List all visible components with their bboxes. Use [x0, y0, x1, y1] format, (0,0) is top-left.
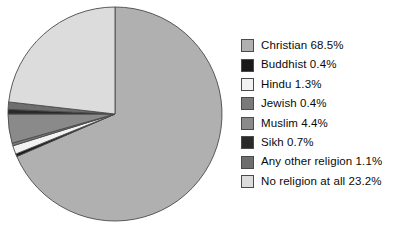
legend-swatch-jewish [241, 97, 254, 110]
legend-swatch-no-religion-at-all [241, 175, 254, 188]
chart-legend: Christian 68.5% Buddhist 0.4% Hindu 1.3%… [241, 36, 399, 191]
legend-item-jewish[interactable]: Jewish 0.4% [241, 94, 399, 113]
legend-swatch-christian [241, 39, 254, 52]
legend-label-muslim: Muslim 4.4% [261, 118, 328, 130]
pie-slice-no-religion-at-all[interactable] [9, 7, 115, 114]
legend-swatch-hindu [241, 78, 254, 91]
pie-chart-area [0, 0, 235, 229]
legend-item-muslim[interactable]: Muslim 4.4% [241, 114, 399, 133]
legend-label-buddhist: Buddhist 0.4% [261, 59, 336, 71]
legend-item-hindu[interactable]: Hindu 1.3% [241, 75, 399, 94]
legend-label-sikh: Sikh 0.7% [261, 137, 314, 149]
legend-swatch-sikh [241, 136, 254, 149]
pie-chart-figure: Christian 68.5% Buddhist 0.4% Hindu 1.3%… [0, 0, 401, 229]
legend-label-hindu: Hindu 1.3% [261, 79, 321, 91]
legend-label-no-religion-at-all: No religion at all 23.2% [261, 176, 382, 188]
legend-swatch-buddhist [241, 59, 254, 72]
legend-item-any-other-religion[interactable]: Any other religion 1.1% [241, 152, 399, 171]
pie-chart-svg [0, 0, 235, 229]
legend-label-christian: Christian 68.5% [261, 40, 344, 52]
legend-item-sikh[interactable]: Sikh 0.7% [241, 133, 399, 152]
legend-item-buddhist[interactable]: Buddhist 0.4% [241, 55, 399, 74]
legend-label-jewish: Jewish 0.4% [261, 98, 327, 110]
legend-label-any-other-religion: Any other religion 1.1% [261, 156, 382, 168]
legend-item-christian[interactable]: Christian 68.5% [241, 36, 399, 55]
legend-swatch-muslim [241, 117, 254, 130]
legend-item-no-religion-at-all[interactable]: No religion at all 23.2% [241, 172, 399, 191]
legend-swatch-any-other-religion [241, 156, 254, 169]
pie-slices-group [8, 7, 222, 221]
